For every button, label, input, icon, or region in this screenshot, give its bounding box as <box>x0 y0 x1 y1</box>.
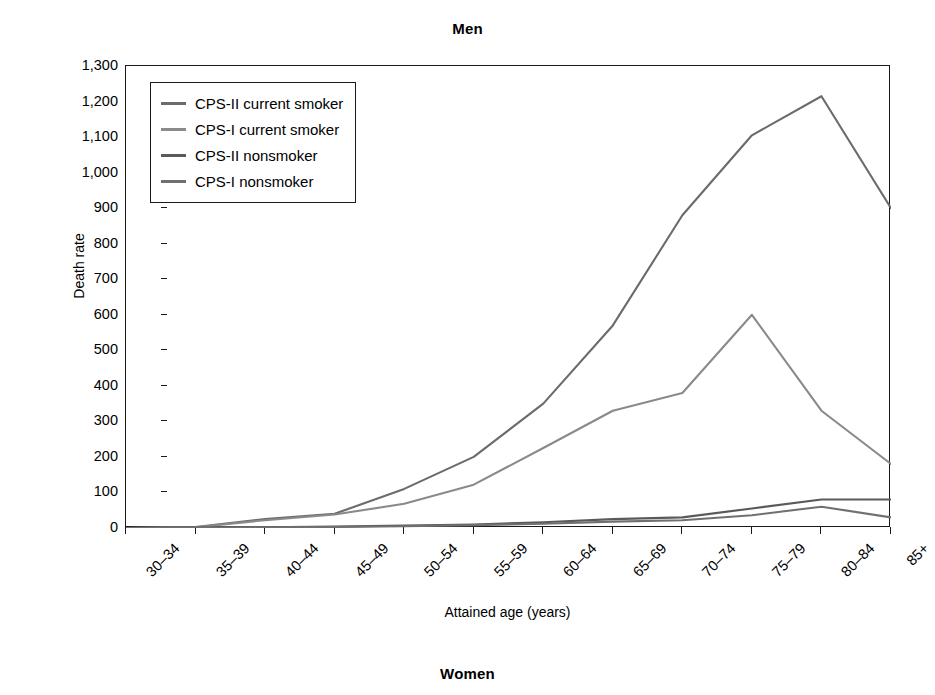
x-axis-tick-mark <box>334 527 335 534</box>
legend-item: CPS-II current smoker <box>161 90 343 116</box>
x-axis-tick-label: 80–84 <box>838 540 878 580</box>
x-axis-tick-mark <box>473 527 474 534</box>
legend-item-label: CPS-I current smoker <box>195 122 339 137</box>
legend-line-swatch-icon <box>161 102 186 105</box>
x-axis-tick-label: 45–49 <box>351 540 391 580</box>
series-line-4 <box>126 507 891 528</box>
x-axis-tick-mark <box>820 527 821 534</box>
x-axis-tick-mark <box>264 527 265 534</box>
x-axis-tick-mark <box>125 527 126 534</box>
death-rate-line-chart-figure: Men Death rate Attained age (years) 0100… <box>0 0 935 695</box>
x-axis-tick-mark <box>195 527 196 534</box>
legend-item: CPS-I current smoker <box>161 116 343 142</box>
legend-item-label: CPS-I nonsmoker <box>195 174 313 189</box>
x-axis-tick-label: 30–34 <box>143 540 183 580</box>
x-axis-tick-label: 55–59 <box>491 540 531 580</box>
series-line-2 <box>126 315 891 528</box>
legend-item-label: CPS-II current smoker <box>195 96 343 111</box>
legend-line-swatch-icon <box>161 180 186 183</box>
chart-legend: CPS-II current smokerCPS-I current smoke… <box>150 82 356 203</box>
x-axis-tick-mark <box>403 527 404 534</box>
x-axis-tick-mark <box>542 527 543 534</box>
x-axis-tick-mark <box>681 527 682 534</box>
x-axis-tick-label: 85+ <box>903 540 932 569</box>
legend-item: CPS-II nonsmoker <box>161 142 343 168</box>
panel-title-women: Women <box>0 665 935 682</box>
x-axis-tick-label: 75–79 <box>769 540 809 580</box>
x-axis-tick-label: 35–39 <box>212 540 252 580</box>
x-axis-tick-label: 50–54 <box>421 540 461 580</box>
x-axis-tick-label: 65–69 <box>630 540 670 580</box>
legend-item: CPS-I nonsmoker <box>161 168 343 194</box>
x-axis-tick-mark <box>612 527 613 534</box>
x-axis-tick-mark <box>751 527 752 534</box>
legend-line-swatch-icon <box>161 128 186 131</box>
x-axis-tick-mark <box>890 527 891 534</box>
legend-item-label: CPS-II nonsmoker <box>195 148 318 163</box>
x-axis-tick-label: 60–64 <box>560 540 600 580</box>
x-axis-tick-label: 70–74 <box>699 540 739 580</box>
legend-line-swatch-icon <box>161 154 186 157</box>
x-axis-tick-label: 40–44 <box>282 540 322 580</box>
